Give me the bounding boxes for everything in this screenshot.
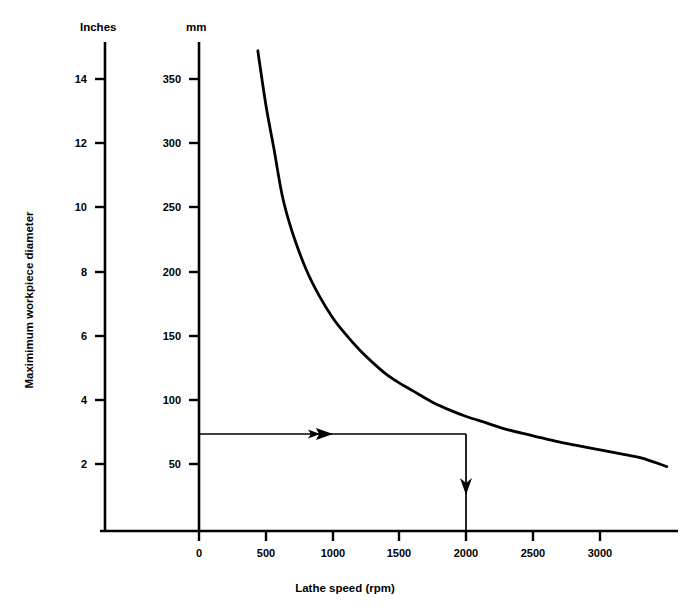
mm-tick-label: 100 <box>163 394 181 406</box>
x-axis-group: 0 500 1000 1500 2000 2500 <box>100 531 678 594</box>
chart-canvas: Inches 14 12 10 8 6 <box>0 0 690 616</box>
mm-tick-label: 250 <box>163 201 181 213</box>
inches-tick-label: 6 <box>81 330 87 342</box>
inches-tick-10: 10 <box>75 201 105 213</box>
inches-tick-2: 2 <box>81 458 105 470</box>
inches-tick-label: 2 <box>81 458 87 470</box>
x-tick-label: 0 <box>196 547 202 559</box>
inches-tick-12: 12 <box>75 137 105 149</box>
x-tick-label: 3000 <box>588 547 612 559</box>
mm-axis-unit-label: mm <box>186 21 206 33</box>
mm-tick-label: 350 <box>163 73 181 85</box>
mm-tick-label: 200 <box>163 266 181 278</box>
inches-tick-label: 12 <box>75 137 87 149</box>
x-tick-label: 2500 <box>521 547 545 559</box>
mm-tick-200: 200 <box>163 266 199 278</box>
inches-tick-label: 8 <box>81 266 87 278</box>
lathe-speed-chart: Inches 14 12 10 8 6 <box>0 0 690 616</box>
mm-tick-label: 50 <box>169 458 181 470</box>
x-tick-500: 500 <box>257 531 275 559</box>
inches-tick-label: 4 <box>81 394 88 406</box>
mm-tick-350: 350 <box>163 73 199 85</box>
x-tick-label: 1000 <box>321 547 345 559</box>
mm-tick-label: 150 <box>163 330 181 342</box>
mm-tick-150: 150 <box>163 330 199 342</box>
readout-horizontal-arrow <box>199 428 466 440</box>
x-tick-1000: 1000 <box>321 531 345 559</box>
mm-tick-300: 300 <box>163 137 199 149</box>
inches-axis-group: Inches 14 12 10 8 6 <box>75 21 117 531</box>
x-tick-2500: 2500 <box>521 531 545 559</box>
inches-tick-4: 4 <box>81 394 105 406</box>
x-tick-label: 500 <box>257 547 275 559</box>
x-tick-2000: 2000 <box>454 531 478 559</box>
x-tick-label: 2000 <box>454 547 478 559</box>
inches-tick-6: 6 <box>81 330 105 342</box>
mm-tick-100: 100 <box>163 394 199 406</box>
mm-tick-250: 250 <box>163 201 199 213</box>
x-axis-title: Lathe speed (rpm) <box>295 582 395 594</box>
inches-tick-label: 14 <box>75 73 88 85</box>
data-curve <box>258 51 667 467</box>
inches-tick-8: 8 <box>81 266 105 278</box>
x-tick-label: 1500 <box>387 547 411 559</box>
inches-axis-unit-label: Inches <box>80 21 116 33</box>
inches-tick-label: 10 <box>75 201 87 213</box>
mm-tick-label: 300 <box>163 137 181 149</box>
mm-tick-50: 50 <box>169 458 199 470</box>
inches-tick-14: 14 <box>75 73 105 85</box>
x-tick-3000: 3000 <box>588 531 612 559</box>
x-tick-0: 0 <box>196 531 202 559</box>
x-tick-1500: 1500 <box>387 531 411 559</box>
readout-vertical-arrow <box>460 434 472 531</box>
mm-axis-group: mm 350 300 250 200 150 <box>163 21 207 531</box>
y-axis-title: Maximimum workpiece diameter <box>23 211 35 389</box>
